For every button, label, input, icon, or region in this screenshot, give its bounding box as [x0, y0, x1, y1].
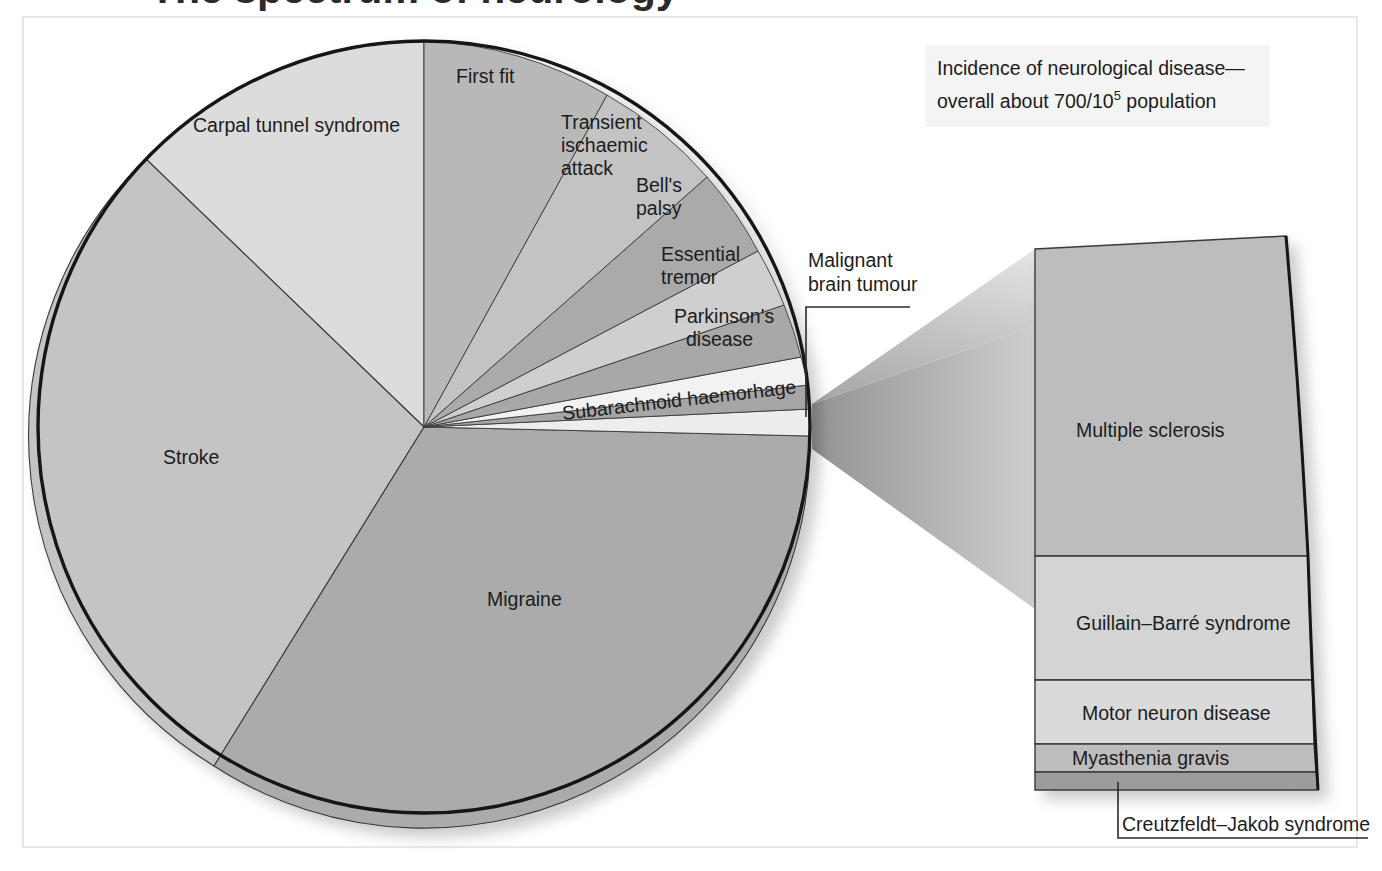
caption-line-2-pre: overall about 700/10	[937, 90, 1114, 112]
label-myasthenia-gravis: Myasthenia gravis	[1072, 747, 1229, 770]
band-creutzfeldt-jakob-syndrome[interactable]	[1035, 772, 1318, 790]
label-malignant-brain-tumour-line1: Malignant	[808, 249, 893, 272]
label-migraine: Migraine	[487, 588, 562, 611]
label-essential-tremor-line1: Essential	[661, 243, 740, 266]
label-carpal-tunnel-syndrome: Carpal tunnel syndrome	[193, 114, 400, 137]
label-parkinsons-disease-line2: disease	[686, 328, 753, 351]
label-essential-tremor-line2: tremor	[661, 266, 717, 289]
caption-exponent: 5	[1114, 88, 1121, 103]
label-parkinsons-disease-line1: Parkinson's	[674, 305, 774, 328]
pie-chart	[29, 41, 811, 828]
band-multiple-sclerosis[interactable]	[1035, 236, 1308, 556]
caption-box: Incidence of neurological disease— overa…	[925, 45, 1270, 127]
label-transient-ischaemic-attack-line2: ischaemic	[561, 134, 648, 157]
label-creutzfeldt-jakob-syndrome: Creutzfeldt–Jakob syndrome	[1122, 813, 1370, 836]
caption-line-2-post: population	[1121, 90, 1216, 112]
label-multiple-sclerosis: Multiple sclerosis	[1076, 419, 1224, 442]
caption-line-1: Incidence of neurological disease—	[937, 57, 1245, 79]
label-motor-neuron-disease: Motor neuron disease	[1082, 702, 1271, 725]
label-bells-palsy-line2: palsy	[636, 197, 682, 220]
label-bells-palsy-line1: Bell's	[636, 174, 682, 197]
label-malignant-brain-tumour-line2: brain tumour	[808, 273, 917, 296]
label-transient-ischaemic-attack-line3: attack	[561, 157, 613, 180]
label-guillain-barre-syndrome: Guillain–Barré syndrome	[1076, 612, 1291, 635]
neurology-incidence-figure: The spectrum of neurology	[0, 0, 1382, 871]
label-stroke: Stroke	[163, 446, 219, 469]
label-transient-ischaemic-attack-line1: Transient	[561, 111, 642, 134]
label-first-fit: First fit	[456, 65, 515, 88]
